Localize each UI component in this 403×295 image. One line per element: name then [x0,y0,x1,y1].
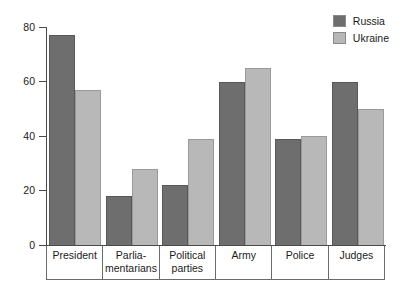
y-tick-mark-20 [39,190,46,191]
x-axis-label-president: President [47,246,103,279]
bar-russia[interactable] [332,82,358,246]
bar-group [160,27,217,245]
bar-ukraine[interactable] [245,68,271,245]
x-axis-label-parliamentarians: Parlia-mentarians [103,246,159,279]
y-tick-mark-0 [39,245,46,246]
x-axis-label-line: parties [172,262,204,275]
bar-russia[interactable] [49,35,75,245]
plot-area [46,27,386,246]
y-axis: 80 60 40 20 0 [0,0,46,245]
x-axis-label-line: Judges [339,249,373,262]
bar-group [273,27,330,245]
bar-russia[interactable] [275,139,301,245]
bar-russia[interactable] [106,196,132,245]
legend-entry-russia: Russia [333,14,389,27]
bar-ukraine[interactable] [301,136,327,245]
legend-label-russia: Russia [353,15,385,27]
x-axis-label-police: Police [272,246,328,279]
y-tick-label-40: 40 [23,131,39,142]
x-axis-label-line: Police [286,249,315,262]
y-tick-mark-60 [39,81,46,82]
bar-ukraine[interactable] [132,169,158,245]
bar-group [330,27,387,245]
bar-russia[interactable] [162,185,188,245]
x-axis-label-band: PresidentParlia-mentariansPoliticalparti… [46,246,385,280]
y-tick-mark-80 [39,27,46,28]
x-axis-label-judges: Judges [329,246,384,279]
y-tick-label-60: 60 [23,76,39,87]
y-tick-label-80: 80 [23,22,39,33]
x-axis-label-army: Army [216,246,272,279]
bar-group [47,27,104,245]
x-axis-label-line: Army [231,249,256,262]
x-axis-label-political-parties: Politicalparties [160,246,216,279]
y-tick-mark-40 [39,136,46,137]
bar-ukraine[interactable] [75,90,101,245]
x-axis-label-line: mentarians [105,262,157,275]
x-axis-label-line: Parlia- [116,249,146,262]
bars-layer [47,27,386,245]
x-axis-label-line: Political [169,249,205,262]
y-tick-label-20: 20 [23,185,39,196]
bar-chart: Russia Ukraine 80 60 40 20 0 [0,0,403,295]
bar-group [104,27,161,245]
bar-russia[interactable] [219,82,245,246]
bar-group [217,27,274,245]
bar-ukraine[interactable] [188,139,214,245]
y-tick-label-0: 0 [29,240,39,251]
x-axis-label-line: President [52,249,96,262]
legend-swatch-russia [333,15,346,27]
bar-ukraine[interactable] [358,109,384,245]
